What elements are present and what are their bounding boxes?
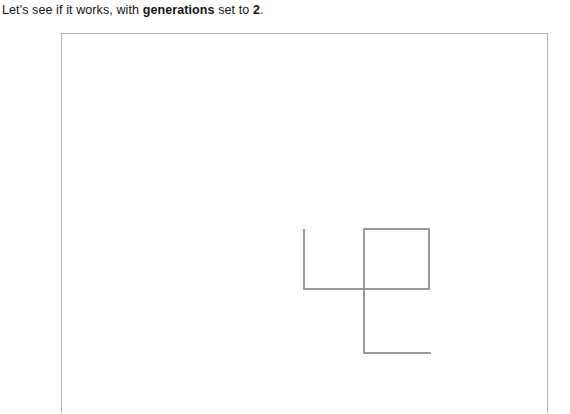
page-caption: Let's see if it works, with generations … [2, 2, 562, 18]
drawing-canvas-frame [61, 33, 548, 413]
fractal-path-group [303, 228, 431, 354]
fractal-drawing [62, 34, 549, 414]
caption-parameter-value: 2 [253, 3, 260, 17]
caption-text-2: set to [215, 3, 253, 17]
caption-text-1: Let's see if it works, with [2, 3, 143, 17]
caption-parameter-name: generations [143, 3, 215, 17]
caption-text-3: . [260, 3, 264, 17]
